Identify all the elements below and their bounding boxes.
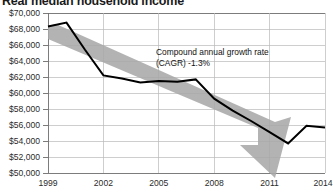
y-axis-ticks xyxy=(43,13,48,173)
chart-container: Real median household income xyxy=(0,0,333,192)
y-tick-label-52000: $52,000 xyxy=(9,152,40,162)
y-tick-label-64000: $64,000 xyxy=(9,56,40,66)
y-tick-label-58000: $58,000 xyxy=(9,104,40,114)
x-tick-label-2008: 2008 xyxy=(205,178,224,188)
y-tick-label-62000: $62,000 xyxy=(9,72,40,82)
x-tick-label-1999: 1999 xyxy=(38,178,57,188)
x-tick-label-2014: 2014 xyxy=(313,178,332,188)
cagr-annotation-line1: Compound annual growth rate xyxy=(156,47,269,57)
cagr-annotation-line2: (CAGR) -1.3% xyxy=(156,58,211,68)
x-tick-label-2011: 2011 xyxy=(260,178,279,188)
y-tick-label-70000: $70,000 xyxy=(9,8,40,18)
x-tick-label-2002: 2002 xyxy=(94,178,113,188)
chart-plot: $70,000 $68,000 $66,000 $64,000 $62,000 … xyxy=(0,0,333,192)
y-tick-label-66000: $66,000 xyxy=(9,40,40,50)
y-axis-labels: $70,000 $68,000 $66,000 $64,000 $62,000 … xyxy=(9,8,40,178)
y-tick-label-68000: $68,000 xyxy=(9,24,40,34)
y-tick-label-56000: $56,000 xyxy=(9,120,40,130)
y-tick-label-54000: $54,000 xyxy=(9,136,40,146)
cagr-annotation: Compound annual growth rate (CAGR) -1.3% xyxy=(156,47,269,68)
y-tick-label-50000: $50,000 xyxy=(9,168,40,178)
x-axis-labels: 1999 2002 2005 2008 2011 2014 xyxy=(38,178,332,188)
y-tick-label-60000: $60,000 xyxy=(9,88,40,98)
x-tick-label-2005: 2005 xyxy=(149,178,168,188)
